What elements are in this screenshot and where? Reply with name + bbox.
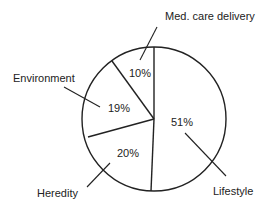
label-heredity: Heredity bbox=[37, 187, 78, 199]
pct-environment: 19% bbox=[108, 102, 130, 114]
pct-med-care: 10% bbox=[129, 67, 151, 79]
label-environment: Environment bbox=[13, 72, 75, 84]
pct-lifestyle: 51% bbox=[171, 116, 193, 128]
pct-heredity: 20% bbox=[117, 147, 139, 159]
pie-chart: Med. care delivery Environment Lifestyle… bbox=[0, 0, 273, 207]
leader-heredity bbox=[87, 163, 110, 187]
label-med-care: Med. care delivery bbox=[165, 10, 255, 22]
label-lifestyle: Lifestyle bbox=[213, 185, 253, 197]
